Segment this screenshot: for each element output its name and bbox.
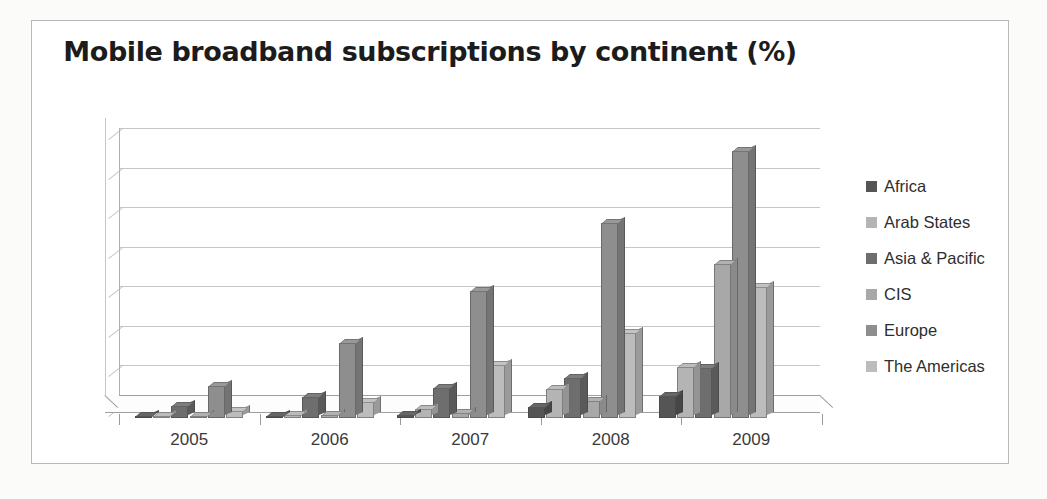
y-axis-back-line xyxy=(105,118,106,395)
bar-side-face xyxy=(636,326,643,415)
chart-title: Mobile broadband subscriptions by contin… xyxy=(0,36,860,67)
bar-europe-2007 xyxy=(470,291,487,418)
bar-front-face xyxy=(659,396,676,418)
x-axis-label-2008: 2008 xyxy=(571,430,651,450)
legend-swatch-icon xyxy=(866,181,877,192)
gridline-depth-edge xyxy=(108,326,123,338)
bar-side-face xyxy=(505,359,512,415)
bar-group-2009 xyxy=(659,141,787,418)
x-axis-tick-mark xyxy=(260,414,261,425)
gridline-depth-edge xyxy=(108,207,123,219)
legend-item-europe[interactable]: Europe xyxy=(866,312,1036,348)
legend-item-the-americas[interactable]: The Americas xyxy=(866,348,1036,384)
bar-cis-2005 xyxy=(190,416,207,418)
legend-swatch-icon xyxy=(866,253,877,264)
legend-label: The Americas xyxy=(884,357,985,376)
bar-side-face xyxy=(712,362,719,415)
x-axis-label-2006: 2006 xyxy=(290,430,370,450)
chart-legend: AfricaArab StatesAsia & PacificCISEurope… xyxy=(866,168,1036,384)
gridline-depth-edge xyxy=(108,286,123,298)
x-axis-tick-mark xyxy=(119,414,120,425)
bar-side-face xyxy=(749,145,756,415)
legend-item-arab-states[interactable]: Arab States xyxy=(866,204,1036,240)
bar-side-face xyxy=(581,372,588,415)
floor-right-edge xyxy=(819,395,833,408)
bar-group-2006 xyxy=(266,141,394,418)
bar-europe-2006 xyxy=(339,343,356,418)
bar-arab-states-2006 xyxy=(284,415,301,418)
x-axis-tick-mark xyxy=(822,414,823,425)
legend-label: Asia & Pacific xyxy=(884,249,985,268)
bar-front-face xyxy=(339,343,356,418)
x-axis-label-2005: 2005 xyxy=(149,430,229,450)
bar-group-2007 xyxy=(397,141,525,418)
chart-page: Mobile broadband subscriptions by contin… xyxy=(0,0,1047,499)
x-axis-label-2007: 2007 xyxy=(430,430,510,450)
legend-label: CIS xyxy=(884,285,912,304)
gridline-depth-edge xyxy=(108,128,123,140)
bar-front-face xyxy=(470,291,487,418)
bar-africa-2009 xyxy=(659,396,676,418)
bar-africa-2005 xyxy=(135,416,152,418)
legend-item-cis[interactable]: CIS xyxy=(866,276,1036,312)
bar-side-face xyxy=(356,337,363,415)
legend-item-africa[interactable]: Africa xyxy=(866,168,1036,204)
bar-side-face xyxy=(487,285,494,415)
legend-swatch-icon xyxy=(866,217,877,228)
bar-front-face xyxy=(528,407,545,418)
legend-label: Europe xyxy=(884,321,937,340)
bar-side-face xyxy=(731,258,738,415)
legend-swatch-icon xyxy=(866,289,877,300)
legend-item-asia-pacific[interactable]: Asia & Pacific xyxy=(866,240,1036,276)
gridline-depth-edge xyxy=(108,366,123,378)
legend-swatch-icon xyxy=(866,361,877,372)
bar-cis-2006 xyxy=(321,415,338,418)
plot-area xyxy=(105,118,820,418)
bar-cis-2007 xyxy=(452,413,469,418)
y-axis-line xyxy=(119,128,120,405)
gridline xyxy=(119,128,820,129)
bar-europe-2008 xyxy=(601,223,618,418)
bar-arab-states-2005 xyxy=(153,416,170,418)
gridline-depth-edge xyxy=(108,168,123,180)
bar-front-face xyxy=(601,223,618,418)
bar-africa-2007 xyxy=(397,415,414,418)
bar-group-2008 xyxy=(528,141,656,418)
x-axis-label-2009: 2009 xyxy=(711,430,791,450)
gridline-depth-edge xyxy=(108,247,123,259)
bar-group-2005 xyxy=(135,141,263,418)
legend-label: Africa xyxy=(884,177,926,196)
legend-swatch-icon xyxy=(866,325,877,336)
bar-side-face xyxy=(767,281,774,415)
bar-front-face xyxy=(302,397,319,418)
bar-side-face xyxy=(618,216,625,415)
bar-africa-2006 xyxy=(266,416,283,418)
bar-side-face xyxy=(694,360,701,415)
legend-label: Arab States xyxy=(884,213,970,232)
bar-asia-pacific-2006 xyxy=(302,397,319,418)
bar-africa-2008 xyxy=(528,407,545,418)
